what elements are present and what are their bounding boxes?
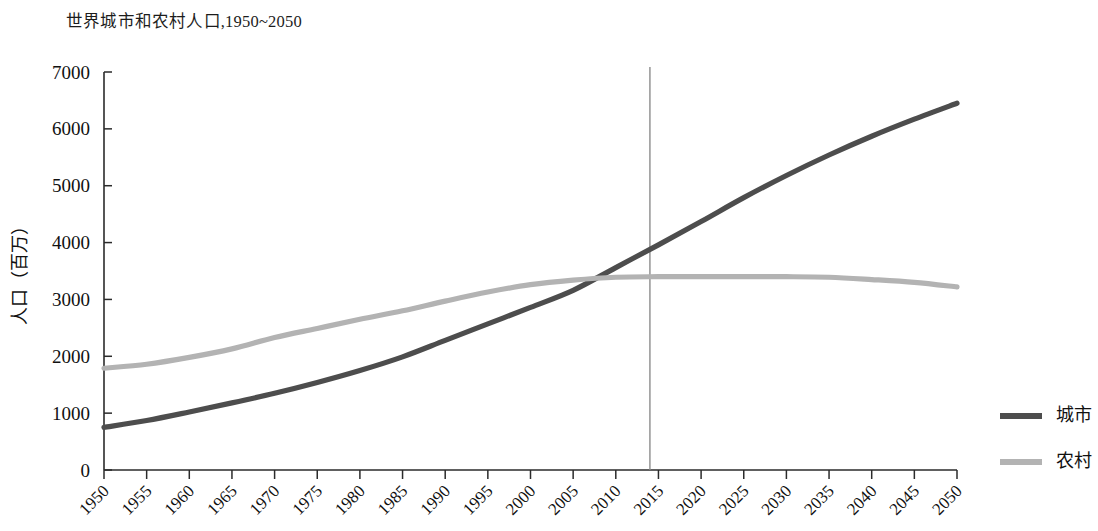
x-tick-label: 1965 — [203, 481, 240, 518]
series-line — [104, 277, 957, 369]
x-tick-label: 1990 — [417, 481, 454, 518]
y-tick-label: 2000 — [52, 346, 90, 367]
line-chart-plot: 01000200030004000500060007000 1950195519… — [0, 0, 1098, 531]
y-tick-label: 0 — [81, 460, 91, 481]
x-tick-label: 2045 — [886, 481, 923, 518]
y-tick-label: 3000 — [52, 289, 90, 310]
y-tick-label: 1000 — [52, 403, 90, 424]
y-axis-tick-marks — [104, 72, 112, 470]
legend-label: 农村 — [1056, 451, 1092, 471]
x-tick-label: 2040 — [843, 481, 880, 518]
x-axis-tick-labels: 1950195519601965197019751980198519901995… — [75, 481, 965, 518]
y-tick-label: 4000 — [52, 232, 90, 253]
x-tick-label: 1975 — [289, 481, 326, 518]
y-axis-tick-labels: 01000200030004000500060007000 — [52, 62, 90, 481]
x-tick-label: 2020 — [672, 481, 709, 518]
x-tick-label: 1950 — [75, 481, 112, 518]
x-axis-tick-marks — [104, 470, 957, 479]
x-tick-label: 2000 — [502, 481, 539, 518]
x-tick-label: 1980 — [331, 481, 368, 518]
y-tick-label: 7000 — [52, 62, 90, 83]
y-axis-title: 人口（百万） — [10, 217, 30, 325]
y-tick-label: 5000 — [52, 175, 90, 196]
y-tick-label: 6000 — [52, 118, 90, 139]
x-tick-label: 2035 — [800, 481, 837, 518]
x-tick-label: 1960 — [161, 481, 198, 518]
x-tick-label: 2015 — [630, 481, 667, 518]
series-line — [104, 103, 957, 427]
x-tick-label: 1985 — [374, 481, 411, 518]
x-tick-label: 1995 — [459, 481, 496, 518]
x-tick-label: 1970 — [246, 481, 283, 518]
x-tick-label: 2005 — [545, 481, 582, 518]
x-tick-label: 1955 — [118, 481, 155, 518]
x-tick-label: 2025 — [715, 481, 752, 518]
x-tick-label: 2010 — [587, 481, 624, 518]
data-series-group — [104, 103, 957, 427]
x-tick-label: 2050 — [928, 481, 965, 518]
chart-figure: 世界城市和农村人口,1950~2050 01000200030004000500… — [0, 0, 1098, 531]
legend-label: 城市 — [1056, 405, 1092, 425]
x-tick-label: 2030 — [758, 481, 795, 518]
chart-legend: 城市农村 — [1000, 405, 1092, 471]
